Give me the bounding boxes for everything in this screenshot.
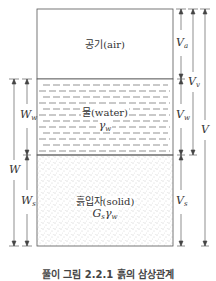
water-label-text: 물(water) — [81, 107, 129, 118]
label-ww: Ww — [20, 108, 37, 122]
label-v: V — [201, 123, 209, 136]
air-label-text: 공기(air) — [84, 39, 126, 50]
label-va: Va — [176, 36, 188, 50]
water-label: 물(water) — [37, 104, 173, 119]
label-vv: Vv — [188, 75, 200, 89]
solid-label-text: 흙입자(solid) — [75, 196, 136, 207]
label-vw: Vw — [176, 108, 190, 122]
solid-specific-gravity-symbol: Gsγw — [37, 207, 173, 221]
air-label: 공기(air) — [37, 36, 173, 51]
label-vs: Vs — [176, 194, 188, 208]
g-symbol: G — [93, 207, 102, 220]
label-ws: Ws — [21, 194, 36, 208]
water-unit-weight-symbol: γw — [37, 119, 173, 133]
figure-caption: 풀이 그림 2.2.1 흙의 삼상관계 — [0, 266, 216, 281]
gamma-subscript: w — [111, 213, 117, 221]
label-w: W — [9, 163, 20, 176]
solid-label: 흙입자(solid) — [37, 193, 173, 208]
gamma-subscript: w — [105, 125, 111, 133]
